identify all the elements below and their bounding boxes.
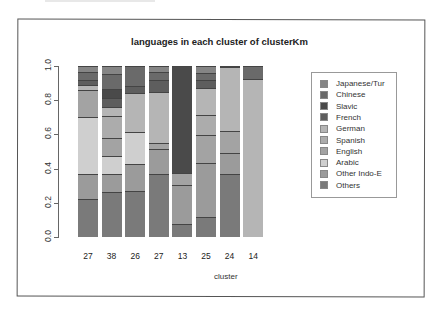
y-tick: [54, 134, 59, 135]
bar-segment: [102, 116, 122, 138]
bar-cluster-6: [220, 66, 240, 237]
bar-segment: [102, 98, 122, 107]
bar-segment: [102, 156, 122, 174]
bar-segment: [196, 135, 216, 163]
bar-segment: [149, 174, 169, 237]
legend-item: Chinese: [320, 90, 365, 99]
bar-segment: [196, 66, 216, 73]
bar-segment: [196, 88, 216, 115]
x-tick-label: 14: [241, 251, 265, 261]
y-tick: [54, 169, 59, 170]
legend-swatch-icon: [320, 181, 328, 189]
bar-segment: [102, 66, 122, 74]
y-tick-label: 0.8: [43, 89, 53, 109]
legend-swatch-icon: [320, 136, 328, 144]
bar-segment: [243, 66, 263, 79]
y-tick: [54, 66, 59, 67]
bar-segment: [149, 92, 169, 143]
x-tick-label: 13: [170, 251, 194, 261]
bar-segment: [125, 86, 145, 93]
bar-segment: [172, 185, 192, 224]
legend-label: Chinese: [336, 90, 365, 99]
x-tick-label: 38: [100, 251, 124, 261]
bar-segment: [196, 80, 216, 88]
bar-segment: [172, 224, 192, 237]
legend: Japanese/TurChineseSlavicFrenchGermanSpa…: [311, 72, 397, 198]
legend-swatch-icon: [320, 170, 328, 178]
bar-segment: [196, 115, 216, 136]
bar-segment: [149, 149, 169, 175]
bar-area: [78, 66, 268, 237]
legend-item: Others: [320, 181, 360, 190]
bar-segment: [78, 117, 98, 174]
x-tick-label: 26: [123, 251, 147, 261]
bar-cluster-5: [196, 66, 216, 237]
bar-segment: [125, 164, 145, 191]
legend-item: Other Indo-E: [320, 169, 382, 178]
bar-segment: [102, 107, 122, 116]
legend-item: French: [320, 113, 361, 122]
bar-segment: [102, 174, 122, 192]
bar-segment: [220, 153, 240, 174]
legend-label: Other Indo-E: [336, 169, 382, 178]
bar-segment: [78, 174, 98, 199]
y-axis: [58, 66, 59, 237]
bar-segment: [78, 90, 98, 117]
legend-item: Spanish: [320, 136, 365, 145]
bar-segment: [102, 74, 122, 88]
bar-cluster-2: [125, 66, 145, 237]
legend-item: Arabic: [320, 158, 359, 167]
bar-segment: [102, 192, 122, 237]
legend-swatch-icon: [320, 102, 328, 110]
bar-segment: [78, 199, 98, 237]
y-tick-label: 1.0: [43, 55, 53, 75]
cropped-caption-text: [45, 0, 155, 2]
legend-label: Slavic: [336, 102, 357, 111]
legend-label: Japanese/Tur: [336, 79, 385, 88]
legend-swatch-icon: [320, 80, 328, 88]
legend-swatch-icon: [320, 91, 328, 99]
legend-swatch-icon: [320, 147, 328, 155]
legend-label: Others: [336, 181, 360, 190]
y-tick-label: 0.6: [43, 123, 53, 143]
y-tick: [54, 100, 59, 101]
y-tick-label: 0.2: [43, 192, 53, 212]
legend-label: Arabic: [336, 158, 359, 167]
chart-title: languages in each cluster of clusterKm: [0, 36, 439, 47]
bar-cluster-7: [243, 66, 263, 237]
bar-segment: [196, 217, 216, 237]
x-axis-title: cluster: [214, 272, 238, 281]
x-tick-label: 25: [194, 251, 218, 261]
legend-swatch-icon: [320, 125, 328, 133]
bar-segment: [220, 174, 240, 237]
legend-label: German: [336, 124, 365, 133]
y-tick-label: 0.4: [43, 158, 53, 178]
bar-segment: [196, 163, 216, 217]
bar-cluster-3: [149, 66, 169, 237]
y-tick: [54, 237, 59, 238]
legend-item: English: [320, 147, 362, 156]
bar-segment: [125, 132, 145, 164]
bar-segment: [172, 66, 192, 173]
bar-cluster-0: [78, 66, 98, 237]
bar-cluster-4: [172, 66, 192, 237]
x-tick-label: 27: [147, 251, 171, 261]
legend-label: French: [336, 113, 361, 122]
x-tick-label: 27: [76, 251, 100, 261]
bar-segment: [102, 138, 122, 157]
bar-segment: [125, 66, 145, 86]
y-tick-label: 0.0: [43, 226, 53, 246]
legend-item: German: [320, 124, 365, 133]
x-tick-label: 24: [218, 251, 242, 261]
y-tick: [54, 203, 59, 204]
bar-segment: [220, 67, 240, 131]
bar-segment: [149, 80, 169, 92]
bar-segment: [196, 73, 216, 80]
bar-segment: [125, 191, 145, 237]
bar-segment: [149, 72, 169, 80]
bar-segment: [220, 131, 240, 153]
legend-label: Spanish: [336, 136, 365, 145]
legend-swatch-icon: [320, 113, 328, 121]
bar-segment: [78, 72, 98, 80]
legend-item: Slavic: [320, 102, 357, 111]
